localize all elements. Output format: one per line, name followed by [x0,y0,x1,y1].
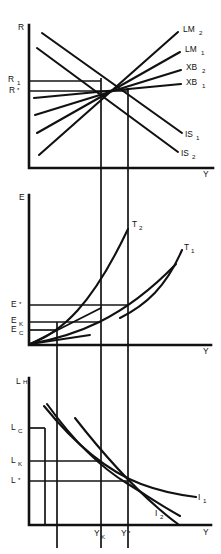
panel1-y-tick-rstar-sub: * [17,86,20,93]
curve-label-xb2-sub: 2 [202,67,206,74]
curve-i1 [44,406,196,497]
panel3-y-tick-lk-sub: K [18,460,23,467]
curve-i2 [47,404,180,516]
panel2-y-tick-ec-base: E [11,324,17,334]
curve-label-xb2-base: XB [186,62,198,72]
panel3-x-tick-yk: Y K [94,528,106,540]
panel3-y-tick-lc-sub: C [18,427,23,434]
panel1-y-tick-rstar-base: R [9,85,15,95]
panel3-x-axis-label: Y [203,527,209,537]
panel3-y-axis-label-group: L H [16,376,27,386]
panel3-y-tick-lstar: L * [11,475,21,485]
curve-label-is2-base: IS [181,148,189,158]
curve-label-lm1-base: LM [185,44,197,54]
panel3-y-axis-label-sub: H [23,378,27,385]
curve-label-xb1-sub: 1 [202,82,206,89]
panel3-y-tick-lstar-base: L [11,475,16,485]
figure-root: R Y R 1 R * LM 2 LM 1 XB 2 [0,0,221,554]
curve-label-i1-base: I [198,492,200,502]
curve-label-is1-base: IS [185,129,193,139]
panel3-x-tick-yk-base: Y [94,528,100,538]
curve-label-is2-sub: 2 [192,153,196,160]
curve-label-is2: IS 2 [181,148,196,160]
curve-label-t2-base: T [132,219,137,229]
curve-label-t1-sub: 1 [191,247,195,254]
curve-label-lm1-sub: 1 [201,49,205,56]
curve-label-xb2: XB 2 [186,62,206,74]
panel1-x-axis-label: Y [203,169,209,179]
curve-label-i1: I 1 [198,492,207,504]
panel3-y-tick-lstar-sub: * [18,476,21,483]
panel2-y-tick-estar-base: E [11,299,17,309]
three-panel-economic-diagram: R Y R 1 R * LM 2 LM 1 XB 2 [0,0,221,554]
panel-is-lm-xb: R Y R 1 R * LM 2 LM 1 XB 2 [8,22,213,179]
panel3-x-tick-yk-sub: K [101,533,106,540]
panel2-y-tick-ec-sub: C [19,329,24,336]
panel3-y-axis-label: L [16,376,21,386]
curve-label-xb1: XB 1 [186,77,206,89]
curve-is2 [37,48,178,152]
curve-label-lm2-base: LM [183,24,195,34]
panel3-y-tick-lc: L C [11,422,23,434]
curve-label-xb1-base: XB [186,77,198,87]
curve-label-t1-base: T [184,242,189,252]
panel-labour: L H Y L C L K L * Y K Y [11,376,211,540]
curve-label-t2-sub: 2 [139,224,143,231]
panel1-y-tick-r1-base: R [8,74,14,84]
curve-t2 [30,229,128,344]
panel2-x-axis-label: Y [203,346,209,356]
curve-label-t1: T 1 [184,242,195,254]
curve-label-lm2-sub: 2 [199,29,203,36]
curve-t1-upper [120,250,182,318]
panel2-y-tick-estar: E * [11,299,22,309]
curve-label-i2-base: I [155,508,157,518]
panel3-y-tick-lk-base: L [11,455,16,465]
panel1-y-tick-r1-sub: 1 [17,79,21,86]
curve-label-i2-sub: 2 [160,513,164,520]
curve-label-is1: IS 1 [185,129,200,141]
curve-i2-lower [75,418,178,524]
panel3-x-tick-ystar-base: Y [121,528,127,538]
curve-label-lm2: LM 2 [183,24,203,36]
curve-xb2 [35,70,181,115]
panel2-y-tick-ek-sub: K [19,320,24,327]
panel2-y-axis-label: E [19,192,25,202]
curve-label-i1-sub: 1 [203,497,207,504]
panel3-x-tick-ystar: Y * [121,528,131,538]
panel3-x-tick-ystar-sub: * [128,529,131,536]
panel1-y-tick-rstar: R * [9,85,20,95]
panel1-y-axis-label: R [18,22,24,32]
curve-label-t2: T 2 [132,219,143,231]
panel3-y-tick-lk: L K [11,455,23,467]
panel3-y-tick-lc-base: L [11,422,16,432]
curve-label-lm1: LM 1 [185,44,205,56]
curve-label-is1-sub: 1 [196,134,200,141]
panel2-y-tick-estar-sub: * [19,300,22,307]
